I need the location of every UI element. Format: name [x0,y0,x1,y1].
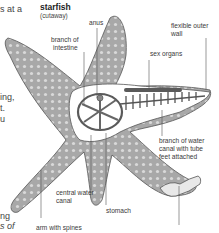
label-branch-water-canal-2: canal with tube [159,145,203,153]
label-arm-with-spines: arm with spines [36,224,82,232]
label-branch-of-intestine-1: branch of [51,36,79,44]
label-sex-organs: sex organs [150,50,182,58]
label-branch-of-intestine-2: intestine [53,44,78,52]
label-stomach: stomach [106,207,131,215]
label-branch-water-canal-3: feet attached [159,153,197,161]
label-central-water-canal-1: central water [56,189,94,197]
label-central-water-canal-2: canal [56,197,72,205]
label-branch-water-canal-1: branch of water [159,137,204,145]
label-flexible-outer-wall-2: wall [171,30,182,38]
diagram-title: starfish [40,2,71,12]
label-anus: anus [89,19,103,27]
diagram-subtitle: (cutaway) [40,12,68,19]
starfish-diagram: s at a ing, t. u ng s of [0,0,219,233]
starfish-illustration [0,0,219,233]
label-flexible-outer-wall-1: flexible outer [171,22,208,30]
